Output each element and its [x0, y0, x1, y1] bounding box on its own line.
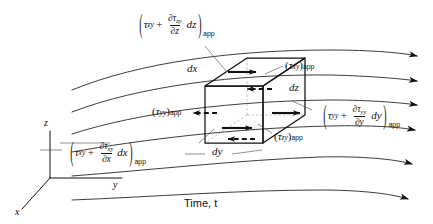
stress-label-tau-zy-plus: ( τzy + ∂τzy ∂z dz ) app: [137, 13, 215, 36]
app-subscript: app: [303, 64, 314, 71]
axis-label-x: x: [15, 207, 19, 217]
fraction-numerator: ∂τxy: [98, 141, 114, 153]
app-subscript: app: [134, 158, 146, 165]
figure-caption: Time, t: [184, 198, 217, 209]
fraction-numerator: ∂τyy: [351, 104, 367, 116]
paren-close: ): [383, 102, 386, 129]
fraction-denominator: ∂z: [170, 25, 180, 36]
tau-subscript: yy: [160, 109, 167, 116]
fraction-numerator: ∂τzy: [167, 13, 183, 25]
dimension-label-dz: dz: [289, 82, 299, 93]
streamline-1: [72, 50, 417, 90]
paren-open: (: [70, 139, 73, 166]
cube-front-face: [205, 86, 263, 143]
stress-label-tau-xy-plus: ( τxy + ∂τxy ∂x dx ) app: [68, 141, 146, 164]
dimension-label-dx: dx: [187, 63, 197, 74]
fraction-denominator: ∂x: [101, 153, 112, 164]
plus-sign: +: [85, 147, 96, 158]
dimension-label-dy: dy: [212, 146, 222, 157]
axis-label-y: y: [113, 180, 117, 190]
paren-close: ): [129, 139, 132, 166]
axis-label-z: z: [44, 118, 48, 128]
app-subscript: app: [388, 121, 400, 128]
paren-open: (: [139, 11, 142, 38]
differential: dz: [185, 19, 197, 30]
tau-subscript: xy: [293, 63, 300, 70]
plus-sign: +: [154, 19, 165, 30]
partial-fraction: ∂τzy ∂z: [167, 13, 183, 36]
leader-top: [205, 46, 227, 72]
axis-x: [22, 178, 50, 209]
tau-subscript: xy: [79, 149, 86, 156]
app-subscript: app: [203, 30, 215, 37]
leader-dy-right: [232, 150, 262, 154]
leader-right-top: [265, 66, 283, 74]
partial-fraction: ∂τyy ∂y: [351, 104, 367, 127]
leader-right: [292, 101, 312, 110]
stress-label-tau-yy: ( τyy ) app: [152, 106, 181, 117]
streamline-6: [72, 190, 408, 200]
differential: dx: [116, 147, 127, 158]
fraction-denominator: ∂y: [354, 116, 365, 127]
tau-subscript: yy: [332, 112, 339, 119]
paren-open: (: [323, 102, 326, 129]
app-subscript: app: [292, 135, 303, 142]
leader-bottom-left: [199, 129, 214, 143]
stress-label-tau-zy: ( τzy ) app: [274, 131, 303, 142]
plus-sign: +: [338, 110, 349, 121]
stress-label-tau-yy-plus: ( τyy + ∂τyy ∂y dy ) app: [321, 104, 400, 127]
app-subscript: app: [170, 110, 181, 117]
differential: dy: [369, 110, 381, 121]
stress-label-tau-xy: ( τxy ) app: [285, 60, 314, 71]
paren-close: ): [198, 11, 201, 38]
partial-fraction: ∂τxy ∂x: [98, 141, 114, 164]
stress-element-figure: ( τzy + ∂τzy ∂z dz ) app ( τxy ) app ( τ…: [0, 0, 433, 224]
